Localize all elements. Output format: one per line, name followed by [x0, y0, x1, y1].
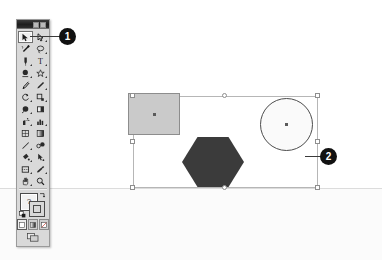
- tool-pencil[interactable]: [33, 79, 48, 91]
- rotate-icon: [21, 93, 30, 102]
- symbol-sprayer-icon: [21, 117, 30, 126]
- handle-bottom-center[interactable]: [222, 185, 227, 190]
- tool-scale[interactable]: [33, 91, 48, 103]
- magic-wand-icon: [21, 45, 30, 54]
- handle-bottom-left[interactable]: [130, 185, 135, 190]
- live-paint-bucket-icon: [21, 153, 30, 162]
- zoom-magnifier-icon: [36, 177, 45, 186]
- slice-icon: [21, 165, 30, 174]
- handle-middle-right[interactable]: [315, 139, 320, 144]
- fill-stroke-controls[interactable]: ?: [19, 192, 47, 218]
- tool-mesh[interactable]: [18, 127, 33, 139]
- callout-2-marker: 2: [320, 148, 337, 165]
- tool-lasso[interactable]: [33, 43, 48, 55]
- tool-magic-wand[interactable]: [18, 43, 33, 55]
- stroke-swatch[interactable]: [29, 201, 45, 217]
- tool-row: [18, 127, 48, 139]
- tool-row: [18, 115, 48, 127]
- tool-blend[interactable]: [33, 139, 48, 151]
- circle-center-point: [285, 123, 288, 126]
- paint-mode-color[interactable]: [17, 219, 27, 230]
- tool-warp[interactable]: [18, 103, 33, 115]
- tool-line-segment[interactable]: [18, 67, 33, 79]
- rectangle-shape[interactable]: [128, 93, 180, 135]
- selection-bounding-box[interactable]: [133, 96, 318, 188]
- tool-grid: T: [17, 29, 49, 187]
- tool-selection[interactable]: [18, 31, 33, 43]
- page-horizon-line: [0, 188, 382, 189]
- tool-row: [18, 79, 48, 91]
- scale-icon: [36, 93, 45, 102]
- gradient-icon: [36, 129, 45, 138]
- tool-row: [18, 91, 48, 103]
- lasso-icon: [36, 45, 45, 54]
- handle-bottom-right[interactable]: [315, 185, 320, 190]
- tool-direct-selection[interactable]: [33, 31, 48, 43]
- circle-shape[interactable]: [260, 98, 313, 151]
- tool-row: [18, 139, 48, 151]
- tool-row: T: [18, 55, 48, 67]
- hexagon-shape[interactable]: [182, 136, 244, 188]
- warp-icon: [21, 105, 30, 114]
- tool-row: [18, 67, 48, 79]
- callout-1-leader-line: [30, 36, 60, 37]
- handle-top-left[interactable]: [130, 93, 135, 98]
- pen-icon: [21, 57, 30, 66]
- tool-row: [18, 175, 48, 187]
- shape-star-icon: [36, 69, 45, 78]
- rectangle-center-point: [153, 113, 156, 116]
- screen-mode-button[interactable]: [26, 232, 40, 242]
- tool-zoom[interactable]: [33, 175, 48, 187]
- tool-live-paint-selection[interactable]: [33, 151, 48, 163]
- callout-1-marker: 1: [59, 28, 76, 45]
- tool-slice[interactable]: [18, 163, 33, 175]
- mesh-icon: [21, 129, 30, 138]
- tool-type[interactable]: T: [33, 55, 48, 67]
- tool-eraser[interactable]: [33, 163, 48, 175]
- paint-mode-gradient[interactable]: [28, 219, 38, 230]
- free-transform-icon: [36, 105, 45, 114]
- tool-shape[interactable]: [33, 67, 48, 79]
- type-icon: T: [36, 57, 45, 66]
- stroke-swatch-inner: [33, 205, 41, 213]
- tool-paintbrush[interactable]: [18, 79, 33, 91]
- tool-eyedropper[interactable]: [18, 139, 33, 151]
- handle-middle-left[interactable]: [130, 139, 135, 144]
- palette-collapse-button[interactable]: [33, 22, 39, 28]
- tool-pen[interactable]: [18, 55, 33, 67]
- tools-palette[interactable]: T: [16, 19, 50, 247]
- palette-close-button[interactable]: [40, 22, 46, 28]
- tool-row: [18, 31, 48, 43]
- live-paint-selection-icon: [36, 153, 45, 162]
- paint-mode-controls[interactable]: [17, 219, 49, 230]
- tool-rotate[interactable]: [18, 91, 33, 103]
- tool-free-transform[interactable]: [33, 103, 48, 115]
- screen-mode-icon: [27, 233, 39, 242]
- tool-column-graph[interactable]: [33, 115, 48, 127]
- selection-arrow-icon: [21, 33, 30, 42]
- screenshot-stage: T: [0, 0, 382, 260]
- paint-mode-none[interactable]: [39, 219, 49, 230]
- default-fill-stroke-icon[interactable]: [19, 211, 26, 218]
- tool-row: [18, 103, 48, 115]
- tool-live-paint-bucket[interactable]: [18, 151, 33, 163]
- svg-text:T: T: [38, 57, 43, 66]
- tool-row: [18, 43, 48, 55]
- screen-mode-controls[interactable]: [17, 232, 49, 242]
- tool-row: [18, 151, 48, 163]
- line-segment-icon: [21, 69, 30, 78]
- tool-symbol-sprayer[interactable]: [18, 115, 33, 127]
- handle-top-right[interactable]: [315, 93, 320, 98]
- handle-top-center[interactable]: [222, 93, 227, 98]
- gradient-swatch-icon: [30, 222, 36, 228]
- eraser-icon: [36, 165, 45, 174]
- page-lower-band: [0, 189, 382, 260]
- eyedropper-icon: [21, 141, 30, 150]
- swap-fill-stroke-icon[interactable]: [39, 192, 46, 199]
- tool-gradient[interactable]: [33, 127, 48, 139]
- tool-hand[interactable]: [18, 175, 33, 187]
- blend-icon: [36, 141, 45, 150]
- pencil-icon: [36, 81, 45, 90]
- palette-titlebar[interactable]: [17, 20, 49, 29]
- none-swatch-icon: [41, 222, 47, 228]
